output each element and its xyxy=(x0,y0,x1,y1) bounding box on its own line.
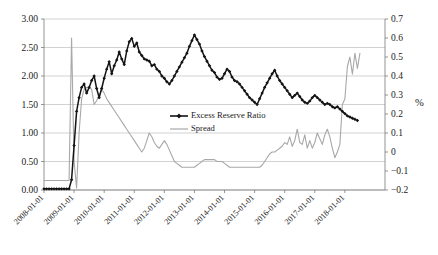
data-point-marker xyxy=(100,87,103,90)
y-axis-left-tick-label: 2.50 xyxy=(21,43,38,53)
gridlines xyxy=(44,19,385,190)
data-point-marker xyxy=(102,77,105,80)
y-axis-right-tick-label: 0.2 xyxy=(391,109,403,119)
x-axis-tick-label: 2009-01-01 xyxy=(42,193,75,226)
y-axis-right-tick-label: 0 xyxy=(391,147,396,157)
data-point-marker xyxy=(95,87,98,90)
y-axis-right-tick-label: 0.1 xyxy=(391,128,403,138)
data-point-marker xyxy=(72,144,75,147)
y-axis-left-tick-label: 0.50 xyxy=(21,157,38,167)
y-axis-left-tick-label: 0.00 xyxy=(21,185,38,195)
x-axis-tick-label: 2014-01-01 xyxy=(193,193,226,226)
x-axis-tick-label: 2017-01-01 xyxy=(283,193,316,226)
legend-label-1: Excess Reserve Ratio xyxy=(191,110,265,120)
data-point-marker xyxy=(125,49,128,52)
chart-container: 0.000.501.001.502.002.503.00 −0.2−0.100.… xyxy=(0,0,438,255)
x-axis-tick-label: 2015-01-01 xyxy=(223,193,256,226)
y-axis-right-tick-label: 0.5 xyxy=(391,52,403,62)
chart-legend: Excess Reserve RatioSpread xyxy=(170,110,265,133)
data-point-marker xyxy=(77,96,80,99)
x-axis-tick-label: 2010-01-01 xyxy=(72,193,105,226)
y-axis-right-tick-label: 0.4 xyxy=(391,71,403,81)
x-axis-tick-label: 2008-01-01 xyxy=(12,193,45,226)
axis-lines xyxy=(41,19,388,193)
excess-reserve-ratio-spread-chart: 0.000.501.001.502.002.503.00 −0.2−0.100.… xyxy=(0,0,438,255)
x-axis-tick-label: 2011-01-01 xyxy=(103,193,136,226)
y-axis-left-tick-label: 3.00 xyxy=(21,14,38,24)
x-axis-tick-label: 2016-01-01 xyxy=(253,193,286,226)
y-axis-left-tick-label: 2.00 xyxy=(21,71,38,81)
y-axis-right-unit-label: % xyxy=(415,97,424,108)
y-axis-right-tick-label: −0.1 xyxy=(391,166,408,176)
data-point-marker xyxy=(70,178,73,181)
y-axis-right-tick-label: 0.3 xyxy=(391,90,403,100)
legend-label-2: Spread xyxy=(191,123,216,133)
y-axis-right-tick-label: −0.2 xyxy=(391,185,408,195)
y-axis-right-tick-labels: −0.2−0.100.10.20.30.40.50.60.7 xyxy=(391,14,408,195)
y-axis-right-tick-label: 0.7 xyxy=(391,14,403,24)
y-axis-left-tick-label: 1.00 xyxy=(21,128,38,138)
legend-marker-diamond xyxy=(177,114,182,119)
x-axis-tick-label: 2012-01-01 xyxy=(132,193,165,226)
y-axis-right-tick-label: 0.6 xyxy=(391,33,403,43)
data-point-marker xyxy=(110,72,113,75)
x-axis-tick-labels: 2008-01-012009-01-012010-01-012011-01-01… xyxy=(12,193,346,226)
y-axis-left-tick-labels: 0.000.501.001.502.002.503.00 xyxy=(21,14,38,195)
x-axis-tick-label: 2013-01-01 xyxy=(162,193,195,226)
y-axis-left-tick-label: 1.50 xyxy=(21,100,38,110)
data-point-marker xyxy=(75,110,78,113)
x-axis-tick-label: 2018-01-01 xyxy=(313,193,346,226)
